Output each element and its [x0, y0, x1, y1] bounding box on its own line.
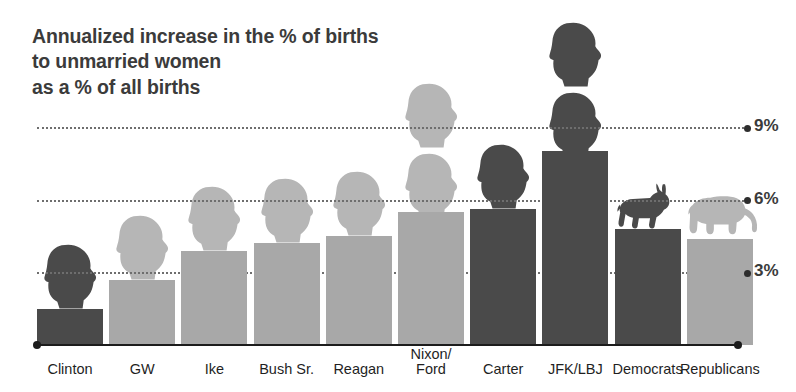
- bar-bush-sr: [254, 243, 320, 345]
- bar-carter: [470, 209, 536, 345]
- gridline-label-3: 3%: [754, 261, 779, 281]
- bar-ike: [181, 251, 247, 345]
- category-label-jfk-lbj: JFK/LBJ: [535, 362, 615, 378]
- bar-clinton: [37, 309, 103, 345]
- bar-republicans: [687, 239, 753, 345]
- category-label-democrats: Democrats: [608, 362, 688, 378]
- baseline-axis: [37, 344, 738, 346]
- category-label-carter: Carter: [463, 362, 543, 378]
- gridline-6: [37, 200, 744, 202]
- president-head-double-icon: [548, 21, 603, 157]
- president-head-icon: [332, 170, 387, 236]
- category-label-ike: Ike: [174, 362, 254, 378]
- president-head-double-icon: [404, 82, 459, 218]
- bar-democrats: [615, 229, 681, 345]
- category-label-reagan: Reagan: [319, 362, 399, 378]
- bar-nixon-ford: [398, 212, 464, 345]
- gridline-dot: [744, 270, 751, 277]
- donkey-icon: [617, 182, 681, 230]
- axis-end-dot-right: [734, 341, 742, 349]
- gridline-label-9: 9%: [754, 116, 779, 136]
- bar-gw: [109, 280, 175, 345]
- gridline-dot: [744, 197, 751, 204]
- category-label-nixon-ford: Nixon/ Ford: [391, 347, 471, 378]
- gridline-9: [37, 127, 744, 129]
- axis-end-dot-left: [33, 341, 41, 349]
- gridline-dot: [744, 125, 751, 132]
- category-label-bush-sr: Bush Sr.: [247, 362, 327, 378]
- president-head-icon: [115, 214, 170, 280]
- category-label-republicans: Republicans: [680, 362, 760, 378]
- category-label-gw: GW: [102, 362, 182, 378]
- bar-reagan: [326, 236, 392, 345]
- category-label-clinton: Clinton: [30, 362, 110, 378]
- president-head-icon: [260, 177, 315, 243]
- infographic-bar-chart: Annualized increase in the % of births t…: [0, 0, 796, 392]
- president-head-icon: [43, 243, 98, 309]
- gridline-label-6: 6%: [754, 189, 779, 209]
- bar-jfk-lbj: [542, 151, 608, 345]
- page-title: Annualized increase in the % of births t…: [32, 24, 378, 100]
- president-head-icon: [187, 185, 242, 251]
